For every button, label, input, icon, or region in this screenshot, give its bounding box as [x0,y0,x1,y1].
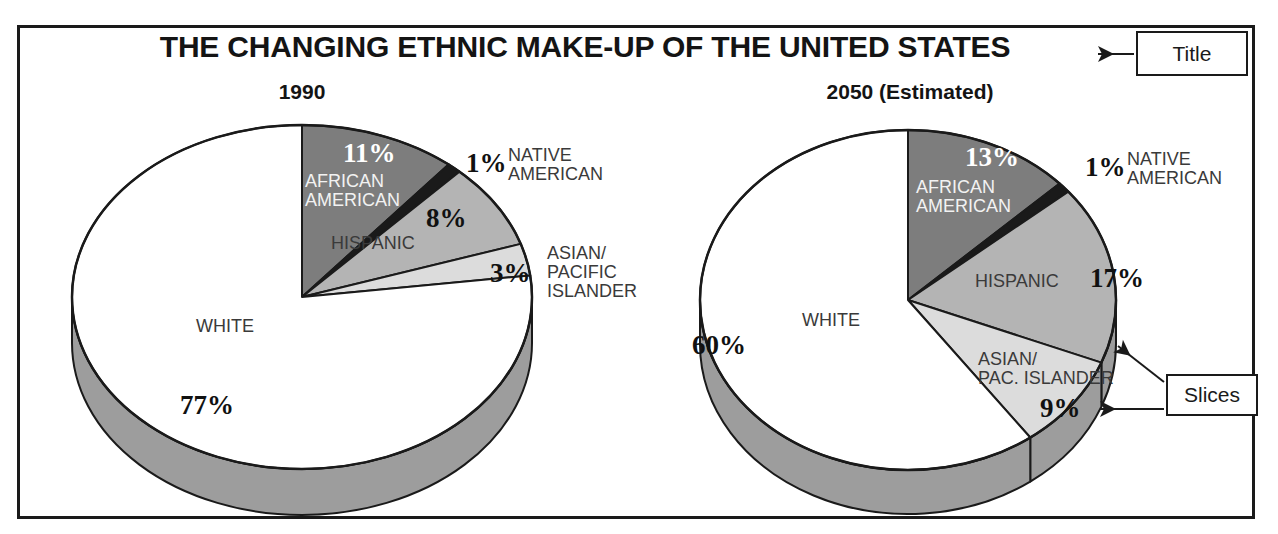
pct-native-2050: 1% [1085,152,1126,183]
pie-chart-2050 [0,0,1278,534]
label-hispanic-1990: HISPANIC [331,234,415,253]
title-callout-box[interactable]: Title [1136,31,1248,76]
label-asian-2050: ASIAN/ PAC. ISLANDER [978,350,1114,388]
figure-canvas: THE CHANGING ETHNIC MAKE-UP OF THE UNITE… [0,0,1278,534]
label-white-1990: WHITE [196,317,254,336]
pct-african-2050: 13% [965,142,1019,173]
label-white-2050: WHITE [802,311,860,330]
slices-callout-box[interactable]: Slices [1166,374,1258,416]
pct-african-1990: 11% [343,138,396,169]
pct-asian-1990: 3% [490,258,531,289]
pct-white-2050: 60% [692,330,746,361]
label-native-2050: NATIVE AMERICAN [1127,150,1222,188]
pct-white-1990: 77% [180,390,234,421]
label-asian-1990: ASIAN/ PACIFIC ISLANDER [547,244,637,301]
label-hispanic-2050: HISPANIC [975,272,1059,291]
pct-native-1990: 1% [466,148,507,179]
label-african-2050: AFRICAN AMERICAN [916,178,1011,216]
pct-asian-2050: 9% [1040,393,1081,424]
label-native-1990: NATIVE AMERICAN [508,146,603,184]
pct-hispanic-2050: 17% [1090,263,1144,294]
pct-hispanic-1990: 8% [426,203,467,234]
label-african-1990: AFRICAN AMERICAN [305,172,400,210]
